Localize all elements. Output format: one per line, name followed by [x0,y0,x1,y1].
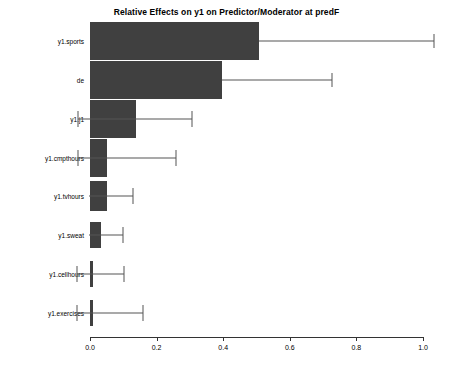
error-bar-line [222,80,332,81]
chart-container: Relative Effects on y1 on Predictor/Mode… [0,0,453,379]
error-bar-line [259,41,434,42]
x-axis-tick-label: 0.2 [152,344,162,351]
x-axis: 0.00.20.40.60.81.0 [0,337,453,379]
error-bar-cap-high [122,227,123,243]
x-axis-tick [157,337,158,341]
error-bar-cap-low [78,111,79,127]
category-label: y1.sports [58,38,84,45]
error-bar-line [89,235,123,236]
error-bar-cap-high [332,73,333,87]
chart-title: Relative Effects on y1 on Predictor/Mode… [0,7,453,17]
x-axis-tick [223,337,224,341]
x-axis-line [90,337,423,338]
bar [90,61,222,99]
error-bar-cap-high [123,266,124,282]
error-bar-cap-high [142,305,143,321]
error-bar-cap-low [76,305,77,321]
category-label: de [77,77,84,84]
plot-area: y1.sportsdey1.j1y1.cmpthoursy1.tvhoursy1… [0,22,453,332]
x-axis-tick-label: 0.8 [352,344,362,351]
category-label: y1.sweat [58,232,84,239]
error-bar-cap-high [433,34,434,48]
error-bar-line [78,118,192,119]
error-bar-line [78,157,176,158]
x-axis-tick [356,337,357,341]
error-bar-line [77,273,124,274]
bar [90,22,259,60]
x-axis-tick [423,337,424,341]
error-bar-line [89,196,133,197]
category-axis-labels: y1.sportsdey1.j1y1.cmpthoursy1.tvhoursy1… [0,22,84,332]
error-bar-line [77,312,143,313]
x-axis-tick [290,337,291,341]
x-axis-tick-label: 0.6 [285,344,295,351]
x-axis-tick-label: 0.0 [85,344,95,351]
error-bar-cap-high [175,150,176,166]
error-bar-cap-low [78,150,79,166]
x-axis-tick-label: 1.0 [418,344,428,351]
x-axis-tick-label: 0.4 [218,344,228,351]
error-bar-cap-low [76,266,77,282]
error-bar-cap-high [133,188,134,204]
error-bar-cap-high [191,111,192,127]
category-label: y1.tvhours [54,193,84,200]
x-axis-tick [90,337,91,341]
